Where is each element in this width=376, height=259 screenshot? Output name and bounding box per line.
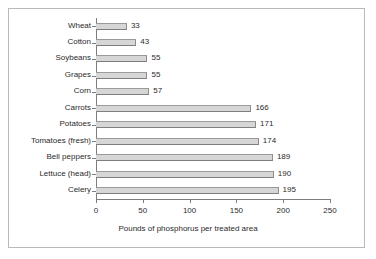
bar-row: Celery195	[96, 183, 330, 199]
bar-row: Soybeans55	[96, 51, 330, 67]
x-axis-tick-label: 200	[277, 205, 290, 216]
category-label: Grapes	[65, 69, 91, 80]
bar-value-label: 195	[283, 184, 296, 195]
bar-row: Tomatoes (fresh)174	[96, 133, 330, 149]
bar	[96, 39, 136, 46]
bar	[96, 72, 147, 79]
bar-value-label: 174	[263, 135, 276, 146]
x-axis-tick	[96, 199, 97, 203]
bar-row: Lettuce (head)190	[96, 166, 330, 182]
category-label: Wheat	[68, 20, 91, 31]
x-axis-tick-label: 50	[138, 205, 147, 216]
x-axis-tick-label: 150	[230, 205, 243, 216]
value-axis-line	[96, 199, 331, 200]
bar-chart-figure: Wheat33Cotton43Soybeans55Grapes55Corn57C…	[0, 0, 376, 259]
category-label: Bell peppers	[47, 151, 91, 162]
category-label: Celery	[68, 184, 91, 195]
x-axis-tick-label: 0	[94, 205, 98, 216]
category-label: Potatoes	[59, 118, 91, 129]
x-axis-tick	[143, 199, 144, 203]
x-axis-tick-label: 250	[323, 205, 336, 216]
bar-value-label: 166	[255, 102, 268, 113]
bar-row: Cotton43	[96, 34, 330, 50]
x-axis-title: Pounds of phosphorus per treated area	[0, 224, 376, 233]
bar	[96, 88, 149, 95]
bar-value-label: 190	[278, 168, 291, 179]
x-axis-tick	[236, 199, 237, 203]
category-label: Carrots	[65, 102, 91, 113]
bar-row: Bell peppers189	[96, 150, 330, 166]
bar-row: Potatoes171	[96, 117, 330, 133]
bar	[96, 154, 273, 161]
bar-value-label: 33	[131, 20, 140, 31]
category-label: Corn	[74, 85, 91, 96]
bar-value-label: 171	[260, 118, 273, 129]
bar	[96, 138, 259, 145]
bar-value-label: 43	[140, 36, 149, 47]
bar	[96, 187, 279, 194]
bar-row: Grapes55	[96, 67, 330, 83]
bar-row: Corn57	[96, 84, 330, 100]
bar	[96, 23, 127, 30]
x-axis-tick	[330, 199, 331, 203]
plot-area: Wheat33Cotton43Soybeans55Grapes55Corn57C…	[96, 18, 330, 199]
category-label: Soybeans	[55, 52, 91, 63]
bar	[96, 105, 251, 112]
category-label: Cotton	[67, 36, 91, 47]
bar-row: Carrots166	[96, 100, 330, 116]
bar-value-label: 57	[153, 85, 162, 96]
bar	[96, 121, 256, 128]
category-label: Lettuce (head)	[39, 168, 91, 179]
bar-value-label: 189	[277, 151, 290, 162]
bar-value-label: 55	[151, 69, 160, 80]
bar-row: Wheat33	[96, 18, 330, 34]
category-label: Tomatoes (fresh)	[31, 135, 91, 146]
bar-value-label: 55	[151, 52, 160, 63]
x-axis-tick-label: 100	[183, 205, 196, 216]
bar	[96, 55, 147, 62]
bar	[96, 171, 274, 178]
x-axis-tick	[283, 199, 284, 203]
x-axis-tick	[190, 199, 191, 203]
